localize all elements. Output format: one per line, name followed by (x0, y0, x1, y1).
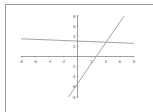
y-tick-label: 8 (73, 14, 76, 19)
x-tick-label: 4 (104, 59, 107, 64)
y-tick-label: 4 (73, 34, 76, 39)
y-tick-label: -2 (72, 64, 76, 69)
axes (21, 15, 134, 98)
y-tick-label: -8 (72, 95, 76, 100)
x-tick-label: 8 (133, 59, 136, 64)
y-tick-label: -4 (72, 74, 76, 79)
x-tick-label: 6 (119, 59, 122, 64)
x-tick-label: -4 (47, 59, 51, 64)
y-tick-label: 2 (73, 44, 76, 49)
x-tick-label: -6 (33, 59, 37, 64)
chart: -8-6-4-224688642-2-4-6-8 (0, 0, 153, 112)
y-tick-label: 6 (73, 24, 76, 29)
x-tick-label: -2 (61, 59, 65, 64)
x-tick-label: -8 (19, 59, 23, 64)
